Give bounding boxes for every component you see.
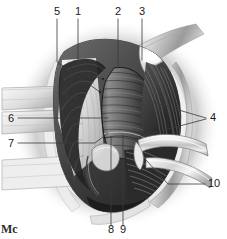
anatomical-figure: 5 1 2 3 6 7 4 10 8 9 Mc (0, 0, 227, 239)
leader-dot-1 (102, 78, 105, 81)
leader-dot-5 (99, 91, 102, 94)
label-6: 6 (8, 112, 14, 124)
label-2: 2 (115, 5, 121, 17)
label-1: 1 (75, 5, 81, 17)
label-10: 10 (208, 177, 220, 189)
artist-signature: Mc (1, 222, 18, 236)
label-7: 7 (8, 137, 14, 149)
label-3: 3 (139, 5, 145, 17)
label-8: 8 (108, 223, 114, 235)
label-9: 9 (120, 223, 126, 235)
label-5: 5 (54, 5, 60, 17)
figure-canvas: 5 1 2 3 6 7 4 10 8 9 Mc (0, 0, 227, 239)
label-4: 4 (210, 111, 216, 123)
